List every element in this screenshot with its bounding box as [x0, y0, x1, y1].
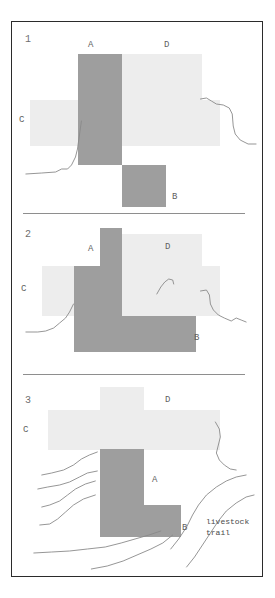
figure-frame: 1 A D C B 2 A — [11, 21, 263, 577]
panel-2-region-C — [42, 266, 220, 316]
panel-3-number: 3 — [25, 395, 32, 406]
panel-3-label-D: D — [165, 395, 171, 405]
panel-3-region-B — [144, 505, 181, 537]
panel-2-label-A: A — [88, 244, 94, 254]
panel-1-label-C: C — [19, 115, 25, 125]
panel-divider-1 — [23, 213, 245, 214]
panel-1-number: 1 — [25, 34, 32, 45]
panel-1-label-B: B — [172, 192, 178, 202]
panel-1-label-D: D — [164, 40, 170, 50]
panel-2: 2 A D C B — [12, 216, 262, 374]
panel-2-label-D: D — [165, 242, 171, 252]
panel-2-region-B — [122, 316, 196, 352]
panel-1-region-C — [30, 100, 220, 146]
panel-3-label-C: C — [23, 425, 29, 435]
panel-3-label-A: A — [152, 475, 158, 485]
panel-1-label-A: A — [88, 40, 94, 50]
panel-2-region-A — [74, 266, 122, 352]
panel-2-label-C: C — [21, 284, 27, 294]
panel-2-label-B: B — [194, 333, 200, 343]
livestock-trail-annotation-line-2: trail — [206, 528, 230, 538]
panel-1-region-D — [122, 54, 202, 102]
panel-2-number: 2 — [25, 229, 32, 240]
panel-3-region-A — [100, 449, 144, 537]
panel-3-label-B: B — [182, 523, 188, 533]
panel-1: 1 A D C B — [12, 22, 262, 212]
panel-3: 3 A D C B livestock trail — [12, 377, 262, 577]
panel-divider-2 — [23, 374, 245, 375]
panel-3-region-C — [48, 410, 220, 450]
panel-1-region-A — [78, 54, 122, 165]
panel-1-region-B — [122, 165, 166, 207]
livestock-trail-annotation-line-1: livestock — [206, 517, 249, 527]
